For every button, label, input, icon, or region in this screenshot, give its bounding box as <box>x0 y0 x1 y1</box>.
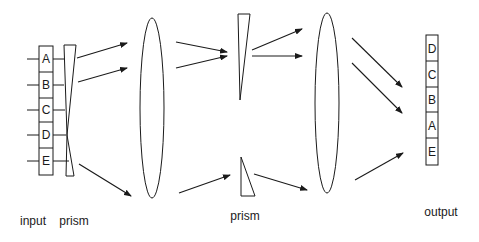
middle-prism-top <box>238 14 250 100</box>
optical-diagram: A B C D E prism <box>0 0 479 242</box>
lens-2 <box>315 13 339 193</box>
middle-prism-bottom <box>241 157 255 196</box>
middle-prism-label: prism <box>230 209 259 223</box>
output-column: D C B A E <box>426 35 438 165</box>
input-label: input <box>20 214 47 228</box>
input-cell-c: C <box>42 103 51 117</box>
output-cell-c: C <box>428 68 437 82</box>
input-cell-a: A <box>42 52 50 66</box>
arrows-lens2-to-output <box>352 38 403 180</box>
input-lead-lines <box>27 59 39 161</box>
input-prism-label: prism <box>59 214 88 228</box>
input-cell-b: B <box>42 78 50 92</box>
input-prism <box>64 45 76 176</box>
lens-1 <box>140 18 164 198</box>
output-cell-b: B <box>428 93 436 107</box>
output-label: output <box>424 205 458 219</box>
arrows-prism-to-lens1 <box>77 43 131 196</box>
output-cell-e: E <box>428 145 436 159</box>
arrows-lens1-to-prism <box>176 42 230 193</box>
arrows-prism-to-lens2 <box>252 29 307 190</box>
output-cell-d: D <box>428 42 437 56</box>
input-cell-e: E <box>42 154 50 168</box>
input-cell-d: D <box>42 128 51 142</box>
input-column: A B C D E <box>27 46 69 175</box>
output-cell-a: A <box>428 119 436 133</box>
